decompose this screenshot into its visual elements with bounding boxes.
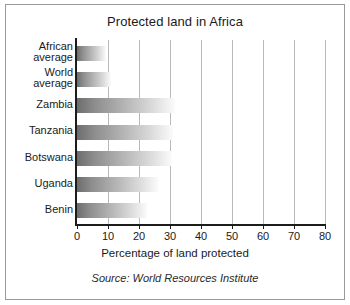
x-tick-label-30: 30 bbox=[155, 230, 185, 242]
chart-figure: Protected land in Africa 010203040506070… bbox=[0, 0, 350, 305]
x-tick-20 bbox=[139, 224, 140, 229]
category-label-zambia: Zambia bbox=[3, 99, 73, 111]
category-label-benin: Benin bbox=[3, 204, 73, 216]
x-axis-line bbox=[75, 224, 325, 226]
category-label-botswana: Botswana bbox=[3, 152, 73, 164]
gridline-80 bbox=[325, 40, 326, 224]
category-label-world-average: Worldaverage bbox=[3, 67, 73, 90]
x-tick-10 bbox=[108, 224, 109, 229]
category-label-tanzania: Tanzania bbox=[3, 125, 73, 137]
x-tick-60 bbox=[263, 224, 264, 229]
plot-area bbox=[77, 40, 325, 224]
x-tick-70 bbox=[294, 224, 295, 229]
x-axis-label: Percentage of land protected bbox=[0, 247, 350, 259]
x-tick-label-70: 70 bbox=[279, 230, 309, 242]
x-tick-label-80: 80 bbox=[310, 230, 340, 242]
x-tick-label-20: 20 bbox=[124, 230, 154, 242]
x-tick-label-40: 40 bbox=[186, 230, 216, 242]
category-label-african-average: Africanaverage bbox=[3, 41, 73, 64]
x-tick-50 bbox=[232, 224, 233, 229]
x-tick-label-10: 10 bbox=[93, 230, 123, 242]
x-tick-label-60: 60 bbox=[248, 230, 278, 242]
category-label-uganda: Uganda bbox=[3, 178, 73, 190]
x-tick-0 bbox=[77, 224, 78, 229]
x-tick-40 bbox=[201, 224, 202, 229]
bar-world-average bbox=[77, 72, 111, 87]
bar-tanzania bbox=[77, 125, 173, 140]
y-axis-category-labels: AfricanaverageWorldaverageZambiaTanzania… bbox=[3, 0, 73, 305]
bar-uganda bbox=[77, 177, 158, 192]
bar-zambia bbox=[77, 98, 175, 113]
x-tick-30 bbox=[170, 224, 171, 229]
bar-botswana bbox=[77, 151, 172, 166]
source-note: Source: World Resources Institute bbox=[0, 272, 350, 284]
x-tick-label-50: 50 bbox=[217, 230, 247, 242]
bar-benin bbox=[77, 203, 147, 218]
bar-african-average bbox=[77, 46, 106, 61]
x-tick-80 bbox=[325, 224, 326, 229]
